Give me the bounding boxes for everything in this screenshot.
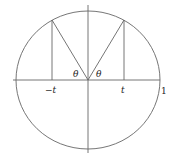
theta-left-label: θ [73, 69, 79, 79]
radius-right [88, 20, 124, 80]
one-label: 1 [161, 86, 167, 96]
radius-left [52, 20, 88, 80]
neg-t-label: −t [45, 85, 57, 95]
theta-right-label: θ [96, 69, 102, 79]
unit-circle-diagram: θ θ −t t 1 [0, 0, 174, 162]
t-label: t [121, 85, 125, 95]
